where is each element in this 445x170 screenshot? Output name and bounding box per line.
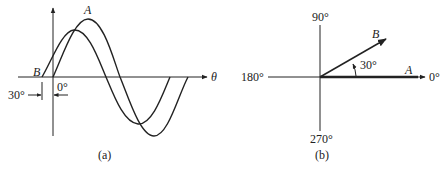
wave-a-label: A <box>84 4 91 16</box>
caption-b: (b) <box>315 149 329 161</box>
angle-label-90: 90° <box>312 11 329 23</box>
origin-label: 0° <box>57 81 68 93</box>
angle-label-270: 270° <box>310 133 333 145</box>
angle-label-0: 0° <box>429 71 440 83</box>
phase-shift-label: 30° <box>8 89 25 101</box>
theta-label: θ <box>211 71 217 83</box>
wave-b-label: B <box>33 66 40 78</box>
angle-label-180: 180° <box>241 71 264 83</box>
figure-b <box>268 25 425 131</box>
figure-a <box>18 8 207 136</box>
phasor-b-label: B <box>372 28 379 40</box>
phasor-a-label: A <box>405 64 412 76</box>
caption-a: (a) <box>98 149 111 161</box>
angle-arc <box>353 64 356 76</box>
angle-between-label: 30° <box>360 59 377 71</box>
